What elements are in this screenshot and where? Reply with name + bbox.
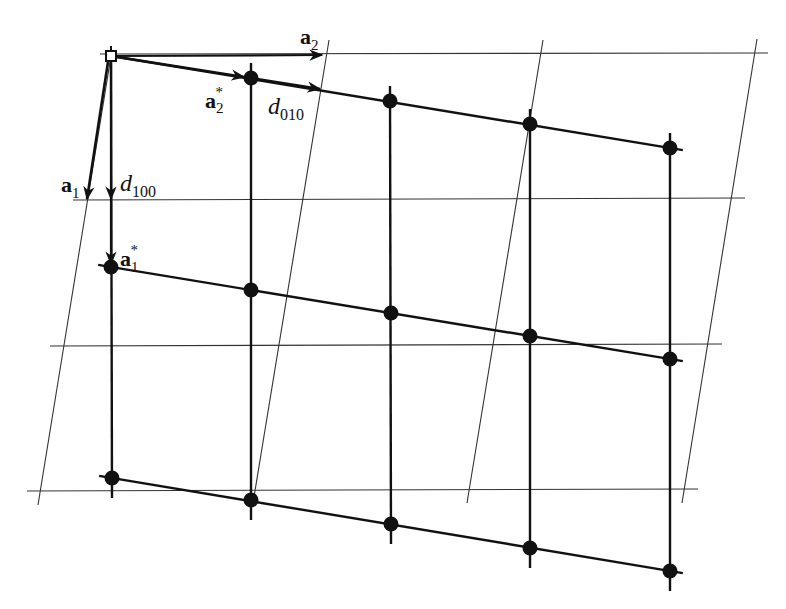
reciprocal-lattice-diagram: a2 a2* d010 a1 d100 a1* (0, 0, 786, 609)
direct-lattice-line (73, 198, 745, 200)
direct-lattice-line (38, 56, 111, 505)
reciprocal-lattice-point (244, 71, 259, 86)
reciprocal-lattice-lines (98, 56, 683, 591)
reciprocal-lattice-point (523, 541, 538, 556)
vector-a2-star (111, 56, 244, 77)
direct-lattice-line (682, 39, 757, 503)
origin-square-icon (106, 51, 116, 61)
reciprocal-lattice-point (384, 306, 399, 321)
basis-vectors (87, 55, 322, 264)
direct-lattice-line (27, 489, 698, 491)
reciprocal-lattice-point (244, 283, 259, 298)
labels: a2 a2* d010 a1 d100 a1* (61, 24, 319, 275)
reciprocal-lattice-point (105, 471, 120, 486)
reciprocal-lattice-point (663, 564, 678, 579)
direct-lattice-line (50, 344, 722, 346)
reciprocal-lattice-point (663, 141, 678, 156)
label-d100: d100 (120, 170, 156, 200)
direct-lattice-line (467, 40, 543, 503)
reciprocal-lattice-point (104, 260, 119, 275)
reciprocal-lattice-point (383, 94, 398, 109)
label-a1-star: a1* (120, 242, 139, 275)
reciprocal-lattice-point (663, 352, 678, 367)
origin-marker (106, 46, 116, 61)
vector-a1 (87, 62, 108, 199)
vector-a2 (111, 55, 322, 56)
label-a2-star: a2* (205, 84, 224, 116)
direct-lattice-line (100, 53, 768, 54)
label-d010: d010 (268, 93, 304, 123)
label-a1: a1 (61, 172, 80, 201)
reciprocal-lattice-point (523, 117, 538, 132)
reciprocal-lattice-point (244, 493, 259, 508)
reciprocal-lattice-point (384, 517, 399, 532)
reciprocal-lattice-point (523, 329, 538, 344)
label-a2: a2 (300, 24, 319, 53)
